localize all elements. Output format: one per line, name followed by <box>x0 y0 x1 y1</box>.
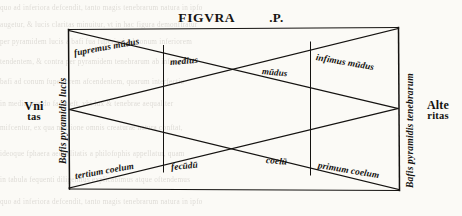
pyramid-of-darkness-lower-side <box>70 110 399 190</box>
frame-bottom-edge <box>70 189 400 191</box>
pyramid-of-light-lower-side <box>69 109 398 189</box>
figure-page: quo ad inferiora defcendit, tanto magis … <box>0 0 462 216</box>
frame-right-edge <box>399 28 400 191</box>
frame-top-edge <box>69 28 399 30</box>
pyramid-diagram <box>0 0 462 216</box>
